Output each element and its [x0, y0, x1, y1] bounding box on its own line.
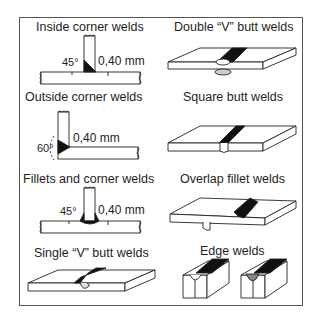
edge-weld-right-drawing [241, 259, 287, 298]
outside-corner-drawing [50, 111, 139, 160]
overlap-fillet-drawing [170, 198, 296, 230]
inside-corner-drawing [40, 35, 141, 84]
weld-drawings [0, 0, 313, 323]
square-butt-drawing [168, 126, 296, 153]
fillets-corner-drawing [40, 187, 141, 233]
edge-weld-left-drawing [183, 259, 229, 298]
double-v-butt-drawing [168, 48, 296, 75]
single-v-butt-drawing [28, 268, 155, 291]
